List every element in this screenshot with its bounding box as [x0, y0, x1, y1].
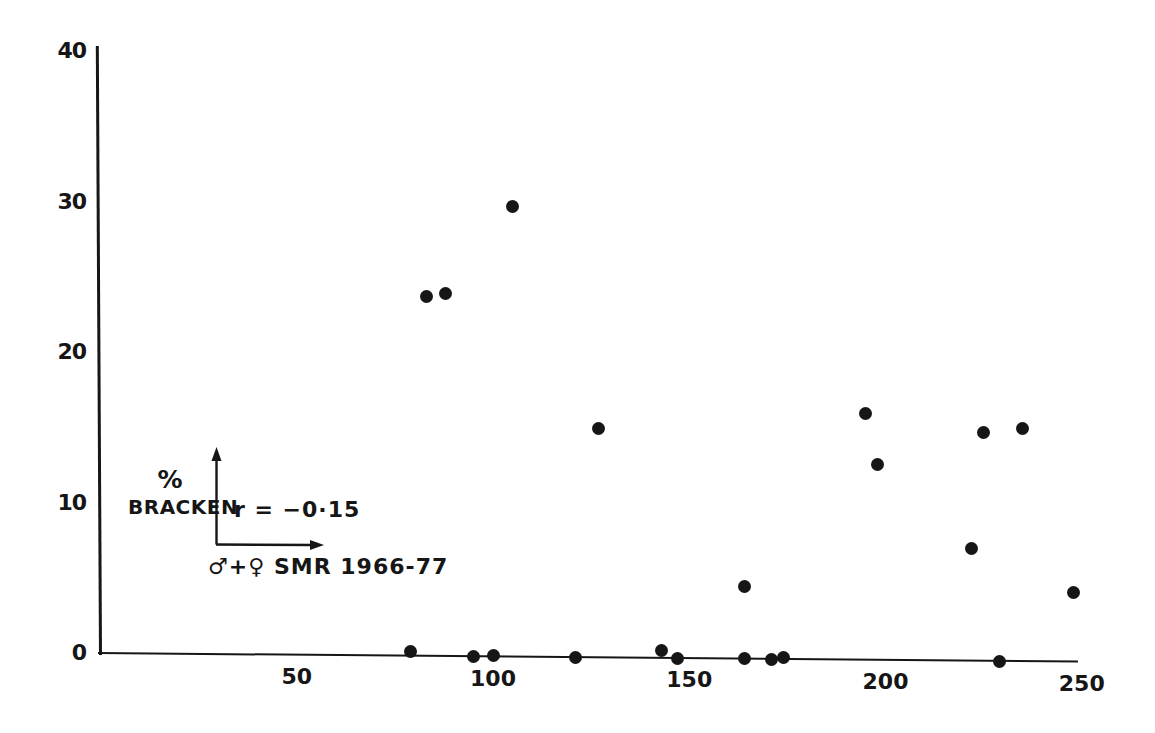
- y-tick-label: 20: [36, 339, 86, 365]
- data-point: [738, 580, 751, 593]
- data-point: [993, 655, 1006, 668]
- data-point: [1016, 422, 1029, 435]
- x-tick-label: 200: [854, 670, 918, 694]
- plot-area: % BRACKEN r = −0·15 ♂+♀ SMR 1966-77 0102…: [0, 0, 1155, 733]
- data-point: [671, 652, 684, 665]
- y-tick-label: 30: [36, 189, 86, 215]
- x-tick-label: 250: [1050, 672, 1114, 696]
- data-point: [655, 644, 668, 657]
- data-point: [738, 652, 751, 665]
- data-point: [777, 651, 790, 664]
- x-axis-line: [98, 652, 1078, 663]
- y-tick-label: 10: [36, 490, 86, 516]
- data-point: [871, 458, 884, 471]
- data-point: [1067, 586, 1080, 599]
- data-point: [977, 426, 990, 439]
- data-point: [467, 650, 480, 663]
- correlation-value-label: r = −0·15: [234, 497, 360, 522]
- y-axis-line: [96, 46, 102, 655]
- x-axis-title: ♂+♀ SMR 1966-77: [208, 554, 448, 579]
- x-tick-label: 100: [461, 667, 525, 691]
- y-tick-label: 40: [36, 38, 86, 64]
- x-tick-label: 50: [265, 665, 329, 689]
- data-point: [965, 542, 978, 555]
- scatter-figure: % BRACKEN r = −0·15 ♂+♀ SMR 1966-77 0102…: [0, 0, 1155, 733]
- data-point: [439, 287, 452, 300]
- data-point: [420, 290, 433, 303]
- x-tick-label: 150: [657, 668, 721, 692]
- data-point: [506, 200, 519, 213]
- data-point: [569, 651, 582, 664]
- data-point: [859, 407, 872, 420]
- data-point: [404, 645, 417, 658]
- y-axis-label-percent: %: [149, 465, 191, 494]
- data-point: [592, 422, 605, 435]
- y-tick-label: 0: [36, 640, 86, 666]
- data-point: [487, 649, 500, 662]
